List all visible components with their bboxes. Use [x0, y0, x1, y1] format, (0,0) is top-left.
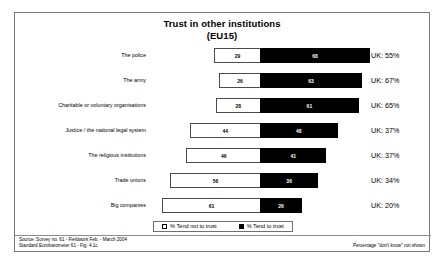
stacked-bar[interactable]: 2968: [214, 48, 370, 63]
chart-row: Trade unions5636UK: 34%: [15, 168, 431, 193]
chart-row: Justice / the national legal system4448U…: [15, 118, 431, 143]
category-label: Charitable or voluntary organisations: [17, 93, 149, 118]
legend-item-tend-to-trust: % Tend to trust: [239, 223, 284, 229]
chart-row: Big companies6126UK: 20%: [15, 193, 431, 218]
source-line-2: Standard Eurobarometer 61 - Fig. 4.1c: [19, 243, 127, 249]
bar-segment-tend-not-to-trust[interactable]: 61: [162, 198, 261, 213]
plot-area: The police2968UK: 55%The army2663UK: 67%…: [15, 43, 431, 218]
chart-container: Trust in other institutions (EU15) The p…: [14, 12, 430, 252]
bar-area: 2861: [153, 93, 365, 118]
stacked-bar[interactable]: 2663: [219, 73, 362, 88]
bar-segment-tend-to-trust[interactable]: 36: [260, 173, 318, 188]
uk-value-annotation: UK: 55%: [371, 43, 399, 68]
uk-value-annotation: UK: 67%: [371, 68, 399, 93]
bar-segment-tend-not-to-trust[interactable]: 29: [214, 48, 261, 63]
bar-segment-tend-to-trust[interactable]: 68: [260, 48, 370, 63]
bar-area: 5636: [153, 168, 365, 193]
category-label: Big companies: [17, 193, 149, 218]
chart-legend: % Tend not to trust % Tend to trust: [15, 221, 431, 232]
chart-row: The religious institutions4641UK: 37%: [15, 143, 431, 168]
category-label: The police: [17, 43, 149, 68]
category-label: Justice / the national legal system: [17, 118, 149, 143]
chart-row: The army2663UK: 67%: [15, 68, 431, 93]
chart-row: Charitable or voluntary organisations286…: [15, 93, 431, 118]
bar-segment-tend-not-to-trust[interactable]: 44: [190, 123, 261, 138]
uk-value-annotation: UK: 20%: [371, 193, 399, 218]
uk-value-annotation: UK: 37%: [371, 118, 399, 143]
chart-title: Trust in other institutions (EU15): [15, 18, 429, 41]
bar-segment-tend-to-trust[interactable]: 48: [260, 123, 338, 138]
category-label: The army: [17, 68, 149, 93]
legend-swatch-icon-white: [162, 224, 167, 229]
stacked-bar[interactable]: 6126: [162, 198, 302, 213]
bar-area: 4641: [153, 143, 365, 168]
bar-segment-tend-not-to-trust[interactable]: 46: [186, 148, 261, 163]
chart-row: The police2968UK: 55%: [15, 43, 431, 68]
category-label: The religious institutions: [17, 143, 149, 168]
percentage-note: Percentage "don't know" not shown: [353, 243, 425, 248]
legend-swatch-icon-black: [239, 224, 244, 229]
bar-segment-tend-to-trust[interactable]: 63: [260, 73, 362, 88]
chart-subtitle: (EU15): [15, 30, 429, 42]
bar-segment-tend-to-trust[interactable]: 26: [260, 198, 302, 213]
bar-segment-tend-not-to-trust[interactable]: 56: [170, 173, 261, 188]
uk-value-annotation: UK: 65%: [371, 93, 399, 118]
bar-area: 2663: [153, 68, 365, 93]
stacked-bar[interactable]: 4448: [190, 123, 338, 138]
chart-title-main: Trust in other institutions: [163, 18, 280, 29]
category-label: Trade unions: [17, 168, 149, 193]
legend-label-tend-not-to-trust: % Tend not to trust: [170, 223, 217, 229]
stacked-bar[interactable]: 4641: [186, 148, 326, 163]
uk-value-annotation: UK: 37%: [371, 143, 399, 168]
bar-area: 4448: [153, 118, 365, 143]
stacked-bar[interactable]: 2861: [216, 98, 359, 113]
source-note: Source: Survey no. 61 - Fieldwork Feb. -…: [19, 237, 127, 249]
legend-label-tend-to-trust: % Tend to trust: [247, 223, 284, 229]
bar-area: 2968: [153, 43, 365, 68]
bar-segment-tend-to-trust[interactable]: 41: [260, 148, 326, 163]
footer-divider: [15, 235, 431, 236]
bar-segment-tend-not-to-trust[interactable]: 28: [216, 98, 261, 113]
bar-area: 6126: [153, 193, 365, 218]
uk-value-annotation: UK: 34%: [371, 168, 399, 193]
bar-segment-tend-not-to-trust[interactable]: 26: [219, 73, 261, 88]
legend-item-tend-not-to-trust: % Tend not to trust: [162, 223, 217, 229]
legend-box: % Tend not to trust % Tend to trust: [153, 221, 293, 232]
bar-segment-tend-to-trust[interactable]: 61: [260, 98, 359, 113]
stacked-bar[interactable]: 5636: [170, 173, 318, 188]
